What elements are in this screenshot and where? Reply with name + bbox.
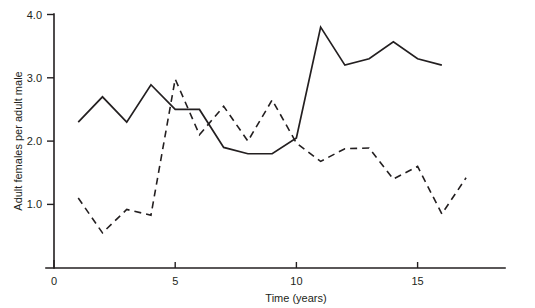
x-tick-label-15: 15	[411, 275, 423, 287]
y-tick-label-1: 1.0	[27, 198, 42, 210]
y-tick-label-2: 2.0	[27, 135, 42, 147]
y-tick-marks	[47, 15, 54, 205]
chart-plot-area: 4.0 3.0 2.0 1.0 0 5 10 15 Time (years) A…	[0, 0, 535, 308]
x-tick-label-0: 0	[51, 275, 57, 287]
y-tick-label-3: 3.0	[27, 72, 42, 84]
series-dashed-line	[78, 79, 466, 233]
x-tick-label-10: 10	[290, 275, 302, 287]
series-solid-line	[78, 27, 442, 154]
chart-figure: 4.0 3.0 2.0 1.0 0 5 10 15 Time (years) A…	[0, 0, 535, 308]
x-tick-label-5: 5	[172, 275, 178, 287]
y-axis-title: Adult females per adult male	[12, 71, 24, 210]
x-tick-marks	[54, 260, 418, 268]
x-axis-title: Time (years)	[265, 292, 326, 304]
y-tick-label-4: 4.0	[27, 9, 42, 21]
